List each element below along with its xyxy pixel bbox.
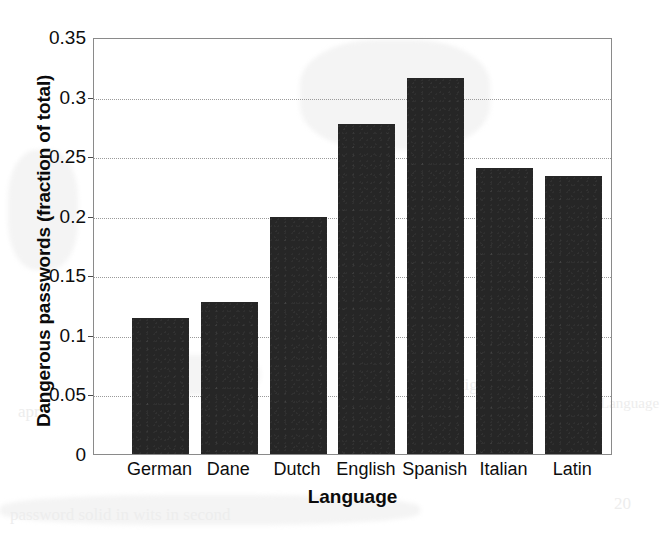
x-axis-label: Language: [93, 486, 612, 508]
x-axis-tick-labels: GermanDaneDutchEnglishSpanishItalianLati…: [93, 458, 612, 484]
bar: [545, 176, 602, 454]
y-tick-label: 0.15: [6, 266, 86, 285]
y-tick-label: 0.35: [6, 28, 86, 47]
y-tick-label: 0: [6, 445, 86, 464]
y-tick-label: 0.1: [6, 326, 86, 345]
bar: [132, 318, 189, 454]
y-tick-label: 0.25: [6, 147, 86, 166]
bar: [201, 302, 258, 455]
y-tick-label: 0.3: [6, 88, 86, 107]
y-axis-ticks: 00.050.10.150.20.250.30.35: [0, 0, 86, 535]
x-tick-label: Latin: [522, 458, 622, 481]
plot-area: [93, 38, 612, 455]
bar: [407, 78, 464, 454]
bar: [476, 168, 533, 454]
bar: [270, 217, 327, 454]
bar-series: [94, 39, 611, 454]
bar-chart-figure: Dangerous passwords (fraction of total) …: [0, 0, 660, 535]
y-tick-label: 0.05: [6, 385, 86, 404]
y-tick-label: 0.2: [6, 207, 86, 226]
bar: [338, 124, 395, 454]
